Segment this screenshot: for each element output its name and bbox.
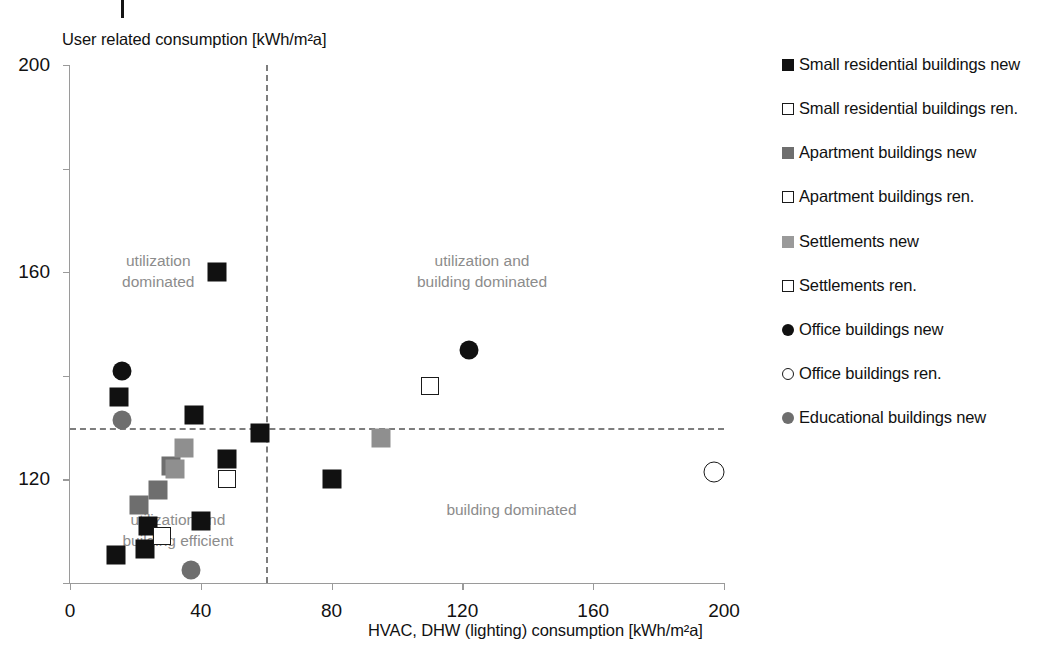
legend-item-label: Apartment buildings ren. xyxy=(799,187,974,206)
data-point-marker xyxy=(149,480,168,499)
y-tick-label: 120 xyxy=(18,468,50,490)
legend-item-label: Small residential buildings ren. xyxy=(799,99,1018,118)
data-point-marker xyxy=(208,263,227,282)
legend-swatch-icon xyxy=(782,412,794,424)
data-point-marker xyxy=(218,470,236,488)
x-tick-mark: 120 xyxy=(462,583,463,590)
data-point-marker xyxy=(371,428,390,447)
x-tick-mark: 80 xyxy=(332,583,333,590)
legend-swatch-icon xyxy=(782,59,794,71)
legend-item[interactable]: Educational buildings new xyxy=(782,408,1034,427)
y-tick-label: 160 xyxy=(18,261,50,283)
legend-swatch-icon xyxy=(782,280,794,292)
x-tick-label: 120 xyxy=(447,600,479,622)
data-point-marker xyxy=(185,405,204,424)
legend-item-label: Settlements new xyxy=(799,232,919,251)
x-tick-label: 0 xyxy=(65,600,76,622)
data-point-marker xyxy=(421,377,439,395)
scatter-chart-figure: User related consumption [kWh/m²a] HVAC,… xyxy=(0,0,1042,658)
legend-item-label: Apartment buildings new xyxy=(799,143,976,162)
legend-item-label: Office buildings new xyxy=(799,320,943,339)
legend-item[interactable]: Office buildings new xyxy=(782,320,1034,339)
legend-swatch-icon xyxy=(782,147,794,159)
data-point-marker xyxy=(217,449,236,468)
data-point-marker xyxy=(110,387,129,406)
chart-legend: Small residential buildings newSmall res… xyxy=(782,55,1034,452)
data-point-marker xyxy=(113,410,132,429)
legend-item[interactable]: Apartment buildings ren. xyxy=(782,187,1034,206)
legend-item-label: Educational buildings new xyxy=(799,408,986,427)
x-axis-line xyxy=(69,583,724,584)
y-tick-label: 200 xyxy=(18,54,50,76)
y-axis-title: User related consumption [kWh/m²a] xyxy=(62,30,326,49)
legend-swatch-icon xyxy=(782,236,794,248)
data-point-marker xyxy=(153,527,171,545)
page-artifact-mark xyxy=(121,0,124,18)
x-axis-title: HVAC, DHW (lighting) consumption [kWh/m²… xyxy=(368,621,703,640)
legend-item-label: Office buildings ren. xyxy=(799,364,941,383)
y-axis-line xyxy=(69,65,70,583)
plot-area: 04080120160200 04080120160200 utilizatio… xyxy=(70,65,724,583)
quadrant-annotation-label: utilization dominated xyxy=(122,251,194,291)
x-tick-mark: 40 xyxy=(201,583,202,590)
x-tick-label: 80 xyxy=(321,600,342,622)
quadrant-annotation-label: building dominated xyxy=(446,500,576,520)
x-tick-mark: 0 xyxy=(70,583,71,590)
data-point-marker xyxy=(129,496,148,515)
x-tick-label: 40 xyxy=(190,600,211,622)
legend-swatch-icon xyxy=(782,324,794,336)
x-tick-label: 200 xyxy=(708,600,740,622)
data-point-marker xyxy=(181,561,200,580)
data-point-marker xyxy=(191,511,210,530)
y-tick-mark: 120 xyxy=(63,272,70,273)
vertical-threshold-line xyxy=(266,65,268,583)
y-tick-mark: 160 xyxy=(63,169,70,170)
legend-swatch-icon xyxy=(782,191,794,203)
legend-item[interactable]: Office buildings ren. xyxy=(782,364,1034,383)
data-point-marker xyxy=(322,470,341,489)
y-tick-mark: 0 xyxy=(63,583,70,584)
x-tick-mark: 200 xyxy=(724,583,725,590)
data-point-marker xyxy=(250,423,269,442)
legend-item[interactable]: Apartment buildings new xyxy=(782,143,1034,162)
legend-swatch-icon xyxy=(782,103,794,115)
y-tick-mark: 40 xyxy=(63,479,70,480)
data-point-marker xyxy=(165,460,184,479)
legend-swatch-icon xyxy=(782,368,794,380)
data-point-marker xyxy=(106,545,125,564)
x-tick-label: 160 xyxy=(577,600,609,622)
data-point-marker xyxy=(459,340,478,359)
legend-item[interactable]: Small residential buildings new xyxy=(782,55,1034,74)
legend-item-label: Settlements ren. xyxy=(799,276,917,295)
legend-item[interactable]: Settlements ren. xyxy=(782,276,1034,295)
data-point-marker xyxy=(704,461,725,482)
data-point-marker xyxy=(175,439,194,458)
legend-item-label: Small residential buildings new xyxy=(799,55,1020,74)
legend-item[interactable]: Small residential buildings ren. xyxy=(782,99,1034,118)
y-tick-mark: 80 xyxy=(63,376,70,377)
x-tick-mark: 160 xyxy=(593,583,594,590)
legend-item[interactable]: Settlements new xyxy=(782,232,1034,251)
data-point-marker xyxy=(113,361,132,380)
horizontal-threshold-line xyxy=(70,428,724,430)
quadrant-annotation-label: utilization and building dominated xyxy=(417,251,547,291)
y-tick-mark: 200 xyxy=(63,65,70,66)
